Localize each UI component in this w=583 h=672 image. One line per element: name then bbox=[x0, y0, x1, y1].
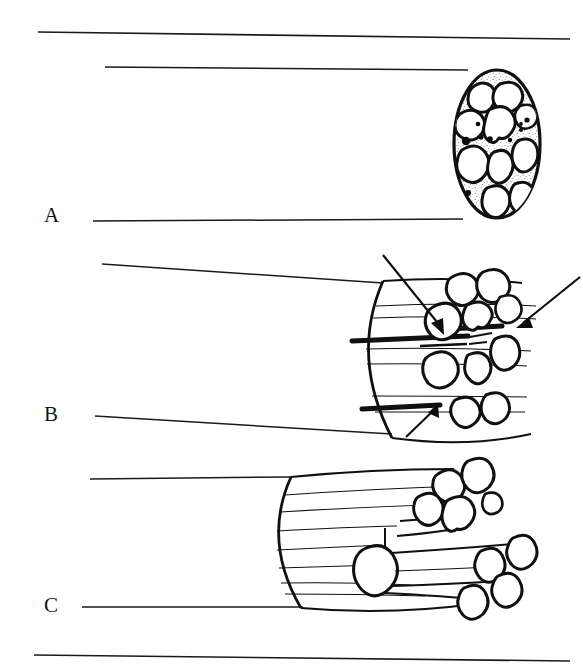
arrow-epineurium bbox=[383, 255, 444, 335]
vessel-stub bbox=[469, 342, 487, 344]
panel-b bbox=[95, 255, 580, 442]
leader-b-top bbox=[102, 264, 383, 283]
nerve-trunk-c bbox=[277, 458, 537, 619]
fascicle bbox=[488, 150, 514, 183]
vessel-dot bbox=[462, 137, 470, 145]
panel-label-c: C bbox=[44, 595, 59, 616]
panel-label-a: A bbox=[44, 205, 60, 226]
fascicle bbox=[465, 353, 491, 384]
cut-face-arc-b bbox=[368, 281, 392, 438]
vessel-stub bbox=[470, 333, 492, 337]
fascicle bbox=[442, 496, 475, 531]
leader-a-bottom bbox=[93, 219, 463, 221]
vessel-dot bbox=[476, 122, 481, 127]
fascicle bbox=[512, 139, 538, 172]
fascicle bbox=[495, 295, 521, 323]
vessel-dot bbox=[487, 136, 493, 142]
arrow-shaft bbox=[523, 277, 580, 323]
fascicle bbox=[423, 352, 459, 388]
fascicle bbox=[458, 585, 488, 619]
fascicle bbox=[515, 105, 538, 129]
vessel-line bbox=[362, 405, 440, 409]
leader-c-top bbox=[90, 477, 291, 479]
figure-canvas bbox=[0, 0, 583, 672]
fascicle bbox=[510, 182, 536, 214]
arrow-shaft bbox=[383, 255, 441, 327]
fibre-line bbox=[277, 526, 397, 531]
nerve-cross-section bbox=[454, 70, 540, 218]
fascicle-large bbox=[354, 546, 398, 596]
panel-label-b: B bbox=[44, 404, 59, 425]
vessel-dot bbox=[508, 138, 512, 142]
fascicle bbox=[462, 458, 494, 492]
arrow-vessel-right bbox=[516, 277, 580, 328]
figure-root: A B C bbox=[0, 0, 583, 672]
fibre-line bbox=[280, 505, 430, 512]
panel-a bbox=[93, 67, 540, 221]
fascicle bbox=[414, 493, 444, 525]
fascicle bbox=[482, 493, 502, 514]
top-rule bbox=[38, 32, 570, 39]
trunk-bottom-contour-c bbox=[301, 603, 481, 611]
leader-a-top bbox=[105, 67, 468, 70]
bottom-rule bbox=[34, 655, 570, 661]
vessel-line bbox=[420, 344, 467, 346]
fascicle bbox=[463, 302, 493, 330]
leader-b-bottom bbox=[95, 416, 392, 434]
trunk-top-contour-c bbox=[291, 469, 454, 477]
fascicle bbox=[481, 393, 509, 424]
vessel-dot bbox=[478, 134, 483, 139]
vessel-dot bbox=[519, 128, 523, 132]
trunk-bottom-contour-b bbox=[392, 434, 531, 442]
fascicle bbox=[492, 573, 522, 607]
cut-face-arc-c bbox=[279, 477, 301, 608]
fascicle bbox=[446, 273, 479, 305]
panel-c bbox=[82, 458, 537, 619]
fascicle bbox=[482, 186, 510, 218]
fascicle bbox=[507, 535, 537, 569]
fascicle bbox=[457, 146, 489, 183]
fascicle bbox=[451, 397, 481, 427]
vessel-dot bbox=[465, 190, 471, 196]
arrow-shaft bbox=[406, 410, 434, 437]
vessel-dot bbox=[524, 117, 529, 122]
fascicle bbox=[491, 336, 520, 370]
vessel-dot bbox=[519, 122, 523, 126]
nerve-trunk-b bbox=[352, 269, 536, 442]
